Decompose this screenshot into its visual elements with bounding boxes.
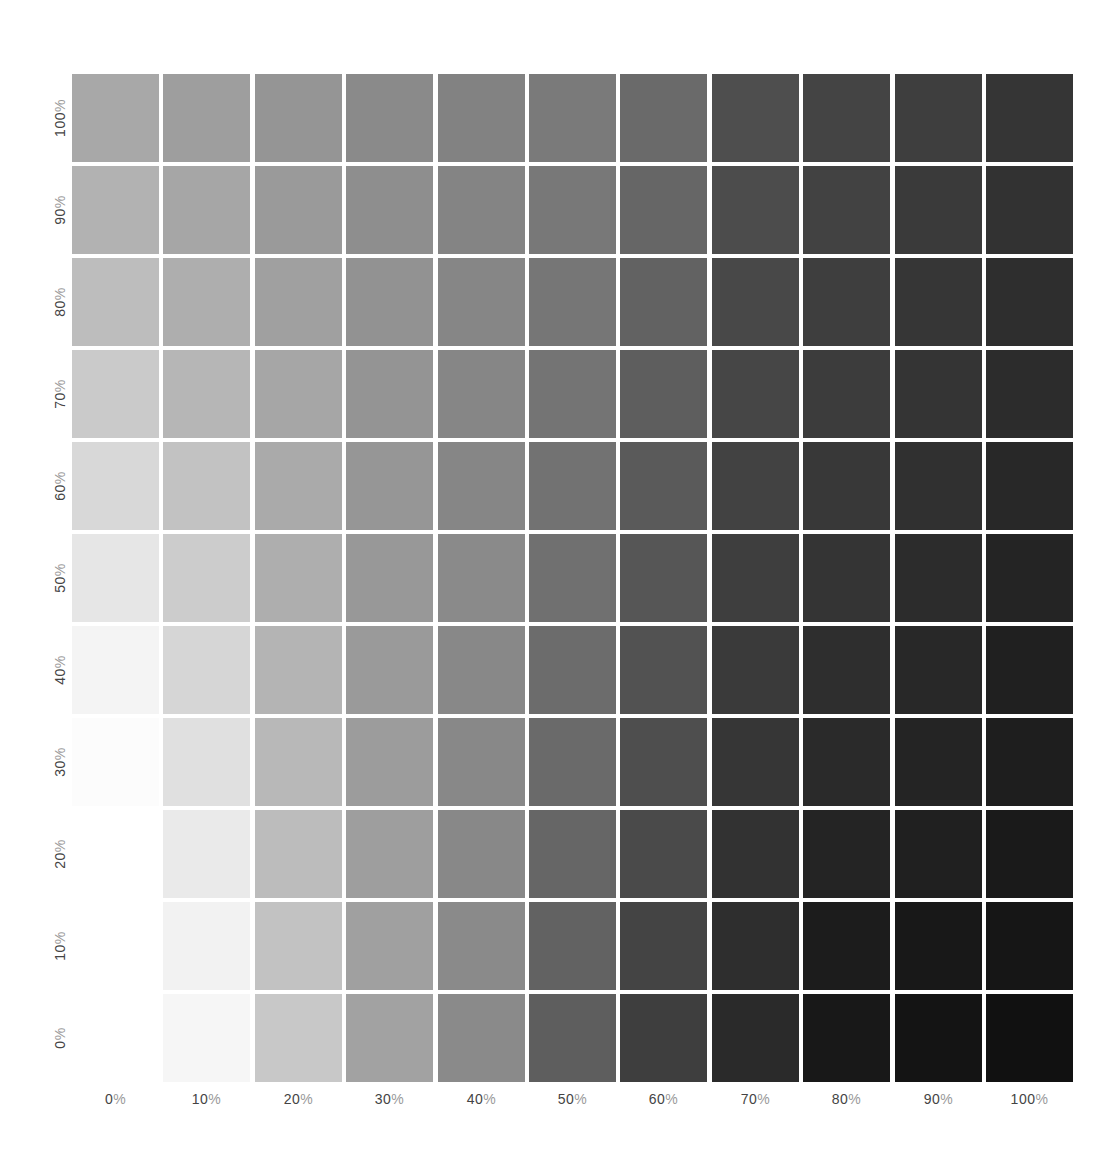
tick-number: 80 (52, 300, 68, 317)
swatch-cell (163, 534, 250, 622)
percent-sign: % (483, 1091, 496, 1107)
swatch-cell (163, 258, 250, 346)
percent-sign: % (391, 1091, 404, 1107)
swatch-cell (803, 626, 890, 714)
percent-sign: % (52, 195, 68, 208)
percent-sign: % (52, 379, 68, 392)
swatch-cell (895, 442, 982, 530)
tick-number: 100 (1011, 1091, 1036, 1107)
tick-number: 70 (741, 1091, 758, 1107)
swatch-cell (346, 534, 433, 622)
swatch-cell (620, 902, 707, 990)
x-tick-label: 20% (253, 1091, 344, 1107)
swatch-cell (438, 534, 525, 622)
swatch-cell (986, 258, 1073, 346)
swatch-cell (803, 994, 890, 1082)
swatch-cell (712, 350, 799, 438)
swatch-cell (163, 626, 250, 714)
swatch-cell (620, 442, 707, 530)
percent-sign: % (300, 1091, 313, 1107)
swatch-cell (163, 718, 250, 806)
swatch-cell (163, 442, 250, 530)
percent-sign: % (52, 1027, 68, 1040)
x-tick-label: 50% (527, 1091, 618, 1107)
swatch-cell (803, 902, 890, 990)
swatch-cell (620, 534, 707, 622)
tick-number: 60 (52, 484, 68, 501)
swatch-cell (163, 994, 250, 1082)
tick-number: 10 (52, 944, 68, 961)
x-tick-label: 30% (344, 1091, 435, 1107)
swatch-cell (803, 350, 890, 438)
swatch-cell (163, 350, 250, 438)
swatch-cell (986, 74, 1073, 162)
swatch-cell (438, 166, 525, 254)
swatch-cell (712, 810, 799, 898)
swatch-cell (895, 258, 982, 346)
x-tick-label: 60% (618, 1091, 709, 1107)
swatch-cell (986, 994, 1073, 1082)
swatch-cell (72, 350, 159, 438)
swatch-cell (712, 74, 799, 162)
percent-sign: % (52, 931, 68, 944)
swatch-cell (620, 74, 707, 162)
tick-number: 90 (924, 1091, 941, 1107)
swatch-cell (255, 718, 342, 806)
y-tick-text: 80% (52, 287, 68, 317)
swatch-cell (712, 626, 799, 714)
percent-sign: % (208, 1091, 221, 1107)
percent-sign: % (665, 1091, 678, 1107)
swatch-cell (346, 626, 433, 714)
swatch-cell (163, 166, 250, 254)
swatch-cell (895, 74, 982, 162)
swatch-cell (986, 350, 1073, 438)
percent-sign: % (52, 471, 68, 484)
swatch-cell (438, 350, 525, 438)
swatch-cell (72, 166, 159, 254)
swatch-cell (255, 994, 342, 1082)
swatch-cell (438, 902, 525, 990)
percent-sign: % (113, 1091, 126, 1107)
swatch-cell (803, 534, 890, 622)
swatch-cell (346, 810, 433, 898)
x-tick-label: 0% (70, 1091, 161, 1107)
swatch-cell (895, 534, 982, 622)
swatch-cell (529, 718, 616, 806)
swatch-cell (72, 74, 159, 162)
swatch-cell (986, 534, 1073, 622)
swatch-cell (529, 902, 616, 990)
swatch-cell (346, 902, 433, 990)
swatch-cell (346, 718, 433, 806)
swatch-cell (72, 534, 159, 622)
swatch-cell (712, 994, 799, 1082)
tick-number: 20 (52, 852, 68, 869)
x-tick-label: 90% (893, 1091, 984, 1107)
swatch-cell (803, 74, 890, 162)
y-tick-text: 10% (52, 931, 68, 961)
grayscale-swatch-grid: 0%10%20%30%40%50%60%70%80%90%100% 100%90… (0, 0, 1117, 1175)
swatch-cell (895, 166, 982, 254)
x-tick-label: 100% (984, 1091, 1075, 1107)
tick-number: 10 (192, 1091, 209, 1107)
swatch-cell (803, 718, 890, 806)
swatch-cell (438, 718, 525, 806)
percent-sign: % (940, 1091, 953, 1107)
swatch-cell (346, 74, 433, 162)
swatch-cell (620, 350, 707, 438)
swatch-cell (72, 258, 159, 346)
y-tick-text: 100% (52, 99, 68, 137)
swatch-cell (895, 718, 982, 806)
swatch-cell (620, 810, 707, 898)
x-tick-label: 40% (436, 1091, 527, 1107)
swatch-cell (163, 810, 250, 898)
tick-number: 80 (832, 1091, 849, 1107)
percent-sign: % (574, 1091, 587, 1107)
percent-sign: % (848, 1091, 861, 1107)
swatch-cell (712, 442, 799, 530)
tick-number: 50 (558, 1091, 575, 1107)
swatch-cell (255, 258, 342, 346)
swatch-cell (986, 166, 1073, 254)
swatch-cell (529, 442, 616, 530)
swatch-cell (803, 166, 890, 254)
percent-sign: % (52, 839, 68, 852)
